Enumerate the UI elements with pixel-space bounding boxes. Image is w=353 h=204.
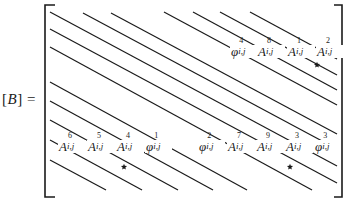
term-base-symbol: A: [257, 139, 265, 154]
term-indices: 9i,j: [265, 141, 283, 151]
term-subscript: i,j: [67, 142, 74, 151]
lhs-close-bracket: ]: [17, 91, 23, 107]
term-subscript: i,j: [125, 142, 132, 151]
term-superscript: 7: [237, 132, 241, 140]
term-indices: 7i,j: [236, 141, 254, 151]
matrix-term-A5: A5i,j: [87, 140, 115, 153]
matrix-term-A8: A8i,j: [257, 45, 285, 58]
lhs-symbol: B: [8, 91, 18, 107]
matrix-term-phi1: φ1i,j: [145, 140, 172, 153]
term-base-symbol: A: [286, 139, 294, 154]
matrix-term-A4: A4i,j: [116, 140, 144, 153]
term-base-symbol: A: [59, 139, 67, 154]
term-indices: 1i,j: [296, 46, 314, 56]
banded-matrix-diagram: [0, 0, 353, 204]
term-superscript: 5: [97, 132, 101, 140]
diagonal-band-line: [111, 13, 337, 134]
term-base-symbol: A: [288, 44, 296, 59]
term-base-symbol: φ: [315, 139, 322, 154]
matrix-term-A1: A1i,j: [287, 45, 315, 58]
diagonal-band-line: [164, 12, 337, 105]
term-indices: 2i,j: [206, 141, 224, 151]
term-indices: 8i,j: [266, 46, 284, 56]
term-indices: 6i,j: [67, 141, 85, 151]
term-base-symbol: φ: [199, 139, 206, 154]
star-marker-icon: [287, 164, 293, 170]
term-subscript: i,j: [266, 47, 273, 56]
diagonal-band-line: [83, 13, 337, 149]
term-superscript: 3: [295, 132, 299, 140]
diagonal-band-line: [50, 47, 312, 190]
term-subscript: i,j: [265, 142, 272, 151]
equals-sign: =: [27, 91, 36, 107]
term-subscript: i,j: [238, 47, 245, 56]
matrix-term-phi3: φ3i,j: [314, 140, 341, 153]
term-superscript: 2: [207, 132, 211, 140]
matrix-term-A2: A2i,j: [316, 45, 344, 58]
term-subscript: i,j: [322, 142, 329, 151]
term-superscript: 1: [297, 37, 301, 45]
term-superscript: 1: [154, 132, 158, 140]
term-subscript: i,j: [236, 142, 243, 151]
term-indices: 5i,j: [96, 141, 114, 151]
term-indices: 4i,j: [238, 46, 256, 56]
term-base-symbol: A: [88, 139, 96, 154]
term-base-symbol: A: [258, 44, 266, 59]
term-subscript: i,j: [325, 47, 332, 56]
matrix-lhs-label: [B] =: [2, 91, 36, 108]
term-subscript: i,j: [296, 47, 303, 56]
term-superscript: 4: [126, 132, 130, 140]
term-subscript: i,j: [153, 142, 160, 151]
term-superscript: 9: [266, 132, 270, 140]
matrix-term-A7: A7i,j: [227, 140, 255, 153]
term-superscript: 2: [326, 37, 330, 45]
term-superscript: 4: [239, 37, 243, 45]
term-indices: 1i,j: [153, 141, 171, 151]
term-indices: 2i,j: [325, 46, 343, 56]
term-subscript: i,j: [206, 142, 213, 151]
term-indices: 4i,j: [125, 141, 143, 151]
term-superscript: 6: [68, 132, 72, 140]
matrix-term-A9: A9i,j: [256, 140, 284, 153]
matrix-term-A6: A6i,j: [58, 140, 86, 153]
matrix-term-A3: A3i,j: [285, 140, 313, 153]
term-base-symbol: A: [117, 139, 125, 154]
term-base-symbol: A: [317, 44, 325, 59]
term-indices: 3i,j: [294, 141, 312, 151]
term-subscript: i,j: [96, 142, 103, 151]
matrix-term-phi4: φ4i,j: [230, 45, 257, 58]
star-marker-icon: [121, 164, 127, 170]
right-bracket: [334, 5, 342, 197]
diagonal-band-line: [50, 160, 106, 190]
term-base-symbol: φ: [231, 44, 238, 59]
term-subscript: i,j: [294, 142, 301, 151]
term-indices: 3i,j: [322, 141, 340, 151]
term-superscript: 8: [267, 37, 271, 45]
term-base-symbol: φ: [146, 139, 153, 154]
matrix-diagonal-bands: [50, 12, 337, 190]
term-superscript: 3: [323, 132, 327, 140]
term-base-symbol: A: [228, 139, 236, 154]
matrix-term-phi2: φ2i,j: [198, 140, 225, 153]
